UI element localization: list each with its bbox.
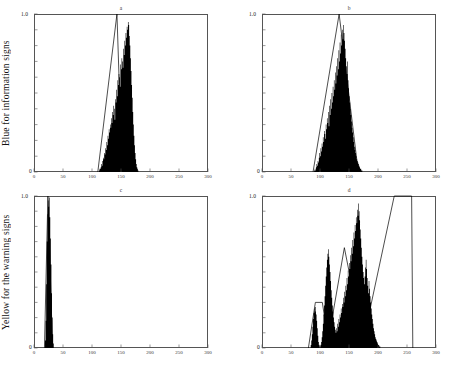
x-axis-tick-label: 100	[88, 350, 96, 355]
x-axis-tick-label: 250	[403, 350, 411, 355]
x-axis-tick-label: 250	[175, 174, 183, 179]
x-axis-tick-label: 0	[261, 174, 264, 179]
x-axis-tick-label: 50	[289, 174, 294, 179]
y-axis-tick-label-max: 1.0	[21, 193, 28, 199]
plot-panel-top-left: 0501001502002503001.00a	[34, 14, 208, 172]
row-label-blue: Blue for information signs	[1, 18, 11, 168]
x-axis-tick-label: 200	[146, 350, 154, 355]
x-axis-tick-label: 250	[403, 174, 411, 179]
x-axis-tick-label: 300	[204, 350, 212, 355]
x-axis-tick-label: 0	[261, 350, 264, 355]
x-axis-tick-label: 300	[432, 174, 440, 179]
plot-title: d	[262, 187, 436, 193]
x-axis-tick-label: 50	[61, 350, 66, 355]
x-axis-tick-label: 100	[316, 174, 324, 179]
histogram-bars	[314, 25, 362, 172]
plot-title: a	[34, 5, 208, 11]
plot-panel-bottom-right: 0501001502002503001.00d	[262, 196, 436, 348]
x-axis-tick-label: 100	[88, 174, 96, 179]
x-axis-tick-label: 50	[61, 174, 66, 179]
plot-series-layer	[262, 14, 436, 173]
y-axis-tick-label-min: 0	[29, 344, 32, 350]
row-label-yellow: Yellow for the warning signs	[1, 196, 11, 348]
y-axis-tick-label-min: 0	[257, 344, 260, 350]
x-axis-tick-label: 50	[289, 350, 294, 355]
y-axis-tick-label-max: 1.0	[249, 11, 256, 17]
x-axis-tick-label: 150	[117, 174, 125, 179]
x-axis-tick-label: 200	[374, 350, 382, 355]
plot-panel-top-right: 0501001502002503001.00b	[262, 14, 436, 172]
histogram-bars	[99, 22, 138, 172]
plot-title: b	[262, 5, 436, 11]
plot-series-layer	[34, 14, 208, 173]
x-axis-tick-label: 100	[316, 350, 324, 355]
y-axis-tick-label-max: 1.0	[249, 193, 256, 199]
y-axis-tick-label-min: 0	[257, 168, 260, 174]
y-axis-tick-label-max: 1.0	[21, 11, 28, 17]
plot-series-layer	[262, 196, 436, 349]
plot-panel-bottom-left: 0501001502002503001.00c	[34, 196, 208, 348]
x-axis-tick-label: 200	[374, 174, 382, 179]
x-axis-tick-label: 300	[204, 174, 212, 179]
histogram-bars	[311, 204, 381, 348]
x-axis-tick-label: 0	[33, 350, 36, 355]
x-axis-tick-label: 150	[117, 350, 125, 355]
x-axis-tick-label: 300	[432, 350, 440, 355]
x-axis-tick-label: 200	[146, 174, 154, 179]
figure-canvas: Blue for information signs Yellow for th…	[0, 0, 471, 372]
x-axis-tick-label: 0	[33, 174, 36, 179]
x-axis-tick-label: 250	[175, 350, 183, 355]
y-axis-tick-label-min: 0	[29, 168, 32, 174]
x-axis-tick-label: 150	[345, 350, 353, 355]
x-axis-tick-label: 150	[345, 174, 353, 179]
plot-title: c	[34, 187, 208, 193]
plot-series-layer	[34, 196, 208, 349]
